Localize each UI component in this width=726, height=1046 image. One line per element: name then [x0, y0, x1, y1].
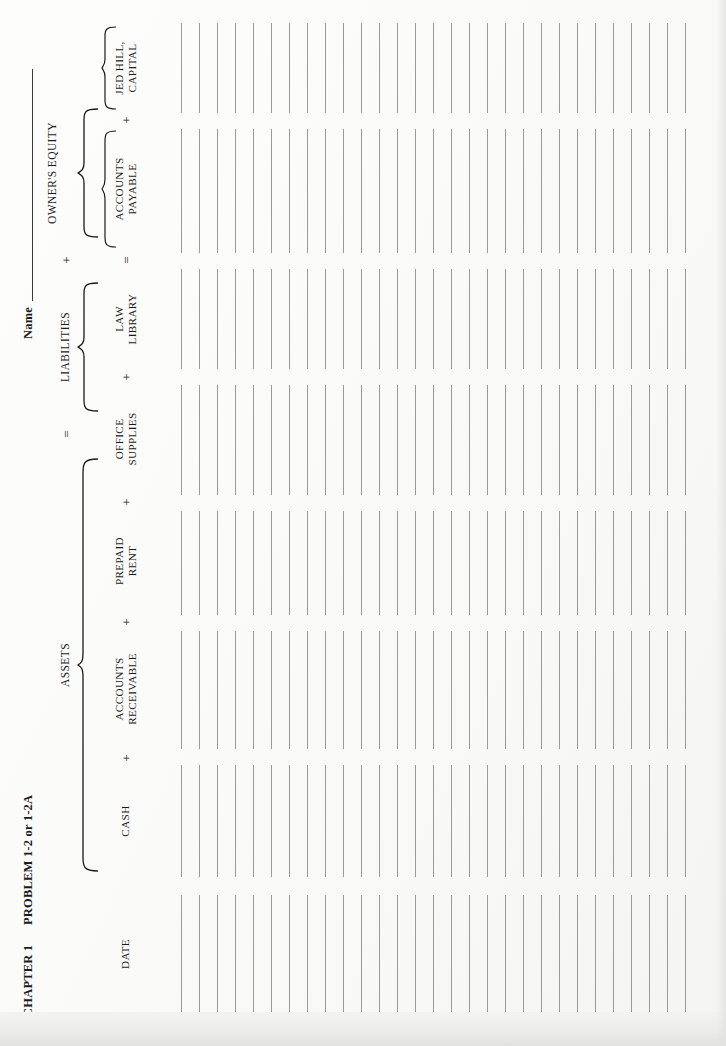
- ledger-row-rule: [505, 269, 506, 369]
- paper-edge-shadow-bottom: [0, 1012, 726, 1046]
- ledger-row-rule: [667, 385, 668, 495]
- ledger-row-rule: [487, 23, 488, 113]
- ledger-row-rule: [685, 511, 686, 615]
- column-header-law-library: LAW LIBRARY: [113, 273, 138, 365]
- ledger-row-rule: [181, 895, 182, 1013]
- ledger-row-rule: [559, 765, 560, 877]
- ledger-row-rule: [181, 269, 182, 369]
- ledger-rule-stack: [163, 385, 701, 495]
- ledger-row-rule: [379, 129, 380, 253]
- worksheet-meta-row: CHAPTER 1 PROBLEM 1-2 or 1-2A Name: [13, 17, 47, 1029]
- ledger-row-rule: [523, 511, 524, 615]
- ledger-row-rule: [415, 129, 416, 253]
- ledger-row-rule: [469, 385, 470, 495]
- ledger-row-rule: [181, 129, 182, 253]
- ledger-row-rule: [631, 765, 632, 877]
- ledger-column-cash[interactable]: [163, 765, 701, 877]
- ledger-row-rule: [613, 385, 614, 495]
- ledger-row-rule: [595, 269, 596, 369]
- column-header-law-library-line1: LAW: [113, 273, 126, 365]
- column-header-date: DATE: [119, 895, 132, 1013]
- assets-group-label: ASSETS: [59, 457, 71, 873]
- ledger-row-rule: [433, 765, 434, 877]
- ledger-row-rule: [577, 765, 578, 877]
- ledger-row-rule: [271, 895, 272, 1013]
- ledger-row-rule: [667, 269, 668, 369]
- scanned-page: CHAPTER 1 PROBLEM 1-2 or 1-2A Name ASSET…: [0, 0, 726, 1046]
- column-header-prepaid-rent: PREPAID RENT: [113, 513, 138, 609]
- name-input-rule[interactable]: [32, 69, 33, 301]
- ledger-row-rule: [667, 511, 668, 615]
- name-field-group: Name: [21, 69, 36, 339]
- column-header-cash-line1: CASH: [119, 769, 132, 873]
- ledger-row-rule: [523, 385, 524, 495]
- ledger-row-rule: [685, 129, 686, 253]
- ledger-row-rule: [271, 129, 272, 253]
- ledger-row-rule: [379, 631, 380, 749]
- ledger-row-rule: [541, 385, 542, 495]
- ledger-row-rule: [217, 765, 218, 877]
- ledger-row-rule: [217, 385, 218, 495]
- ledger-rule-stack: [163, 511, 701, 615]
- ledger-row-rule: [631, 269, 632, 369]
- ledger-row-rule: [217, 511, 218, 615]
- ledger-row-rule: [523, 765, 524, 877]
- ledger-column-law-library[interactable]: [163, 269, 701, 369]
- ledger-row-rule: [343, 23, 344, 113]
- ledger-row-rule: [379, 765, 380, 877]
- ledger-column-date[interactable]: [163, 895, 701, 1013]
- ledger-row-rule: [613, 631, 614, 749]
- ledger-row-rule: [361, 765, 362, 877]
- ledger-column-prepaid-rent[interactable]: [163, 511, 701, 615]
- ledger-rule-stack: [163, 765, 701, 877]
- ledger-row-rule: [451, 895, 452, 1013]
- ledger-row-rule: [577, 23, 578, 113]
- ledger-column-accounts-receivable[interactable]: [163, 631, 701, 749]
- ledger-row-rule: [577, 385, 578, 495]
- ledger-row-rule: [361, 895, 362, 1013]
- ledger-row-rule: [415, 269, 416, 369]
- ledger-row-rule: [631, 385, 632, 495]
- ledger-row-rule: [577, 269, 578, 369]
- ledger-row-rule: [541, 511, 542, 615]
- ledger-row-rule: [199, 631, 200, 749]
- ledger-row-rule: [397, 511, 398, 615]
- ledger-row-rule: [253, 385, 254, 495]
- ledger-row-rule: [505, 385, 506, 495]
- column-header-office-supplies-line1: OFFICE: [113, 389, 126, 489]
- equation-plus-top: +: [59, 253, 75, 267]
- ledger-column-jed-hill-capital[interactable]: [163, 23, 701, 113]
- ledger-row-rule: [685, 23, 686, 113]
- ledger-row-rule: [505, 23, 506, 113]
- ledger-row-rule: [685, 385, 686, 495]
- ledger-row-rule: [559, 895, 560, 1013]
- ledger-column-accounts-payable[interactable]: [163, 129, 701, 253]
- ledger-row-rule: [685, 765, 686, 877]
- ledger-row-rule: [343, 511, 344, 615]
- name-label: Name: [21, 307, 36, 339]
- ledger-row-rule: [451, 765, 452, 877]
- ledger-row-rule: [199, 385, 200, 495]
- operator-plus-supplies-library: +: [119, 370, 135, 384]
- ledger-column-office-supplies[interactable]: [163, 385, 701, 495]
- ledger-row-rule: [541, 895, 542, 1013]
- ledger-row-rule: [541, 129, 542, 253]
- column-header-date-line1: DATE: [119, 895, 132, 1013]
- ledger-row-rule: [343, 895, 344, 1013]
- ledger-row-rule: [343, 631, 344, 749]
- ledger-row-rule: [613, 895, 614, 1013]
- column-header-accounts-receivable: ACCOUNTS RECEIVABLE: [113, 633, 138, 745]
- ledger-grid[interactable]: [163, 17, 701, 1029]
- operator-plus-cash-ar: +: [119, 751, 135, 765]
- ledger-row-rule: [451, 385, 452, 495]
- ledger-row-rule: [307, 895, 308, 1013]
- ledger-row-rule: [559, 631, 560, 749]
- column-header-law-library-line2: LIBRARY: [126, 273, 139, 365]
- ledger-row-rule: [415, 23, 416, 113]
- ledger-row-rule: [469, 631, 470, 749]
- ledger-row-rule: [667, 23, 668, 113]
- operator-plus-ar-prepaid: +: [119, 615, 135, 629]
- ledger-row-rule: [307, 511, 308, 615]
- ledger-row-rule: [325, 129, 326, 253]
- ledger-row-rule: [667, 129, 668, 253]
